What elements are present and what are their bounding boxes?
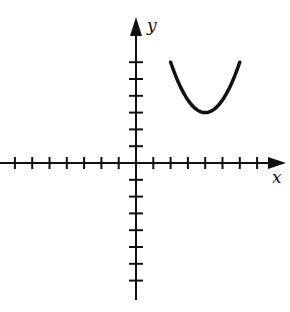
parabola-curve (171, 62, 240, 112)
y-axis-arrow-icon (130, 17, 142, 36)
y-axis-label: y (146, 15, 157, 35)
coordinate-plane: x y (0, 0, 290, 312)
x-axis-label: x (272, 167, 282, 187)
